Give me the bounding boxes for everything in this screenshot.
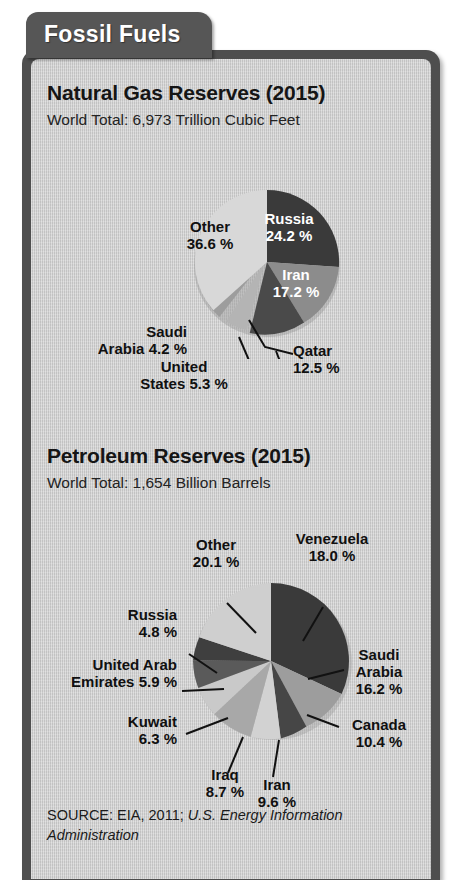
oil-label-united-arab-emirates: United Arab Emirates 5.9 %: [37, 657, 177, 691]
oil-label-saudi-arabia: Saudi Arabia 16.2 %: [331, 647, 427, 697]
source-plain: SOURCE: EIA, 2011;: [47, 807, 188, 823]
leader-line-qatar: [231, 314, 301, 362]
source-note: SOURCE: EIA, 2011; U.S. Energy Informati…: [47, 806, 419, 845]
oil-label-canada: Canada 10.4 %: [329, 717, 429, 751]
gas-label-russia: Russia 24.2 %: [246, 211, 332, 245]
oil-label-russia: Russia 4.8 %: [65, 607, 177, 641]
gas-label-saudi-arabia: Saudi Arabia 4.2 %: [41, 324, 187, 358]
gas-label-united-states: United States 5.3 %: [119, 359, 249, 393]
natural-gas-subtitle: World Total: 6,973 Trillion Cubic Feet: [47, 111, 300, 129]
oil-label-venezuela: Venezuela 18.0 %: [271, 531, 393, 565]
tab-label: Fossil Fuels: [44, 21, 181, 48]
gas-label-other: Other 36.6 %: [167, 219, 253, 253]
petroleum-title: Petroleum Reserves (2015): [47, 444, 310, 468]
content-panel: Natural Gas Reserves (2015) World Total:…: [31, 59, 431, 879]
gas-label-iran: Iran 17.2 %: [253, 267, 339, 301]
oil-label-kuwait: Kuwait 6.3 %: [61, 714, 177, 748]
natural-gas-title: Natural Gas Reserves (2015): [47, 81, 325, 105]
section-tab[interactable]: Fossil Fuels: [26, 12, 212, 58]
petroleum-subtitle: World Total: 1,654 Billion Barrels: [47, 474, 270, 492]
oil-label-other: Other 20.1 %: [161, 537, 271, 571]
